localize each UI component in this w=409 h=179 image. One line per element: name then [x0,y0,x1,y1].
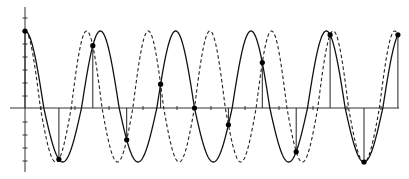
aliasing-chart [0,0,409,179]
sample-dot [124,137,129,142]
sample-dot [328,32,333,37]
sample-dot [22,28,27,33]
sample-dot [56,157,61,162]
sample-dot [226,122,231,127]
sample-dot [192,105,197,110]
sample-dot [395,32,400,37]
solid-wave-line [25,31,399,162]
sample-dot [294,149,299,154]
sample-dot [361,159,366,164]
sample-dot [158,82,163,87]
sample-dot [90,43,95,48]
sample-dot [260,60,265,65]
